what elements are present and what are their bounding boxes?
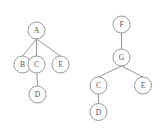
tree-node-c[interactable]: C <box>28 56 45 73</box>
tree-node-c[interactable]: C <box>90 77 107 94</box>
node-label: E <box>141 81 146 90</box>
tree-diagram-figure: ABCEDFGCED <box>0 0 163 130</box>
tree-edge <box>99 66 122 77</box>
tree-diagram-canvas: ABCEDFGCED <box>0 0 163 130</box>
node-label: A <box>34 26 40 35</box>
node-label: E <box>58 60 63 69</box>
node-label: C <box>96 81 101 90</box>
tree-edge <box>37 39 61 56</box>
tree-node-d[interactable]: D <box>90 104 107 121</box>
node-label: F <box>119 20 123 29</box>
node-label: B <box>20 60 25 69</box>
tree-node-f[interactable]: F <box>113 16 130 33</box>
node-label: G <box>119 53 125 62</box>
nodes-layer: ABCEDFGCED <box>14 16 152 121</box>
tree-node-d[interactable]: D <box>29 86 46 103</box>
tree-edge <box>122 66 144 77</box>
tree-edge <box>37 73 38 86</box>
left-tree-nodes: ABCED <box>14 22 69 103</box>
node-label: D <box>96 108 102 117</box>
tree-node-e[interactable]: E <box>52 56 69 73</box>
node-label: C <box>34 60 39 69</box>
right-tree-nodes: FGCED <box>90 16 152 121</box>
tree-node-e[interactable]: E <box>135 77 152 94</box>
tree-node-g[interactable]: G <box>113 49 130 66</box>
tree-node-a[interactable]: A <box>28 22 45 39</box>
right-tree-edges <box>99 33 144 104</box>
tree-edge <box>23 39 37 56</box>
node-label: D <box>35 90 41 99</box>
